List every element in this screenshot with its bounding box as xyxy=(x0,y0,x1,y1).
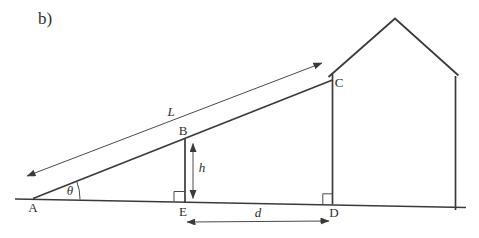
length-label-L: L xyxy=(166,104,174,119)
angle-arc xyxy=(77,181,80,199)
length-measure-arrow xyxy=(27,63,322,176)
right-angle-marker-E xyxy=(174,192,185,203)
point-label-C: C xyxy=(335,75,344,90)
house-roof xyxy=(329,19,459,78)
part-label: b) xyxy=(38,9,52,28)
point-label-A: A xyxy=(28,200,38,215)
ground-line xyxy=(15,199,466,208)
distance-measure-arrow xyxy=(187,221,329,222)
right-angle-marker-D xyxy=(323,194,333,204)
ramp-house-diagram: b) A B C D E L h d θ xyxy=(0,0,479,238)
angle-label-theta: θ xyxy=(67,183,74,198)
point-label-E: E xyxy=(179,204,187,219)
point-label-B: B xyxy=(179,123,188,138)
diagram-canvas: b) A B C D E L h d θ xyxy=(0,0,479,238)
ramp-hypotenuse-line xyxy=(33,80,333,199)
distance-label-d: d xyxy=(255,205,262,220)
height-label-h: h xyxy=(199,160,206,175)
point-label-D: D xyxy=(329,205,338,220)
